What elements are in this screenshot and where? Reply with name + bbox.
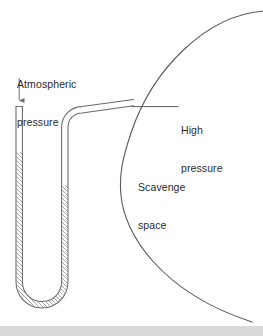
- label-atmospheric-pressure: Atmospheric pressure: [17, 53, 76, 153]
- label-scavenge-space: Scavenge space: [138, 156, 186, 256]
- manometer-fluid-hatching: [17, 152, 68, 307]
- label-scavenge-space-line2: space: [138, 219, 186, 232]
- label-high-pressure-line1: High: [181, 124, 223, 137]
- label-high-pressure-line2: pressure: [181, 162, 223, 175]
- label-high-pressure: High pressure: [181, 99, 223, 199]
- diagram-canvas: Atmospheric pressure High pressure Scave…: [0, 0, 263, 336]
- label-atmospheric-pressure-line1: Atmospheric: [17, 78, 76, 91]
- label-scavenge-space-line1: Scavenge: [138, 181, 186, 194]
- label-atmospheric-pressure-line2: pressure: [17, 116, 76, 129]
- scavenge-space-diagram: [0, 0, 263, 336]
- footer-band: [0, 326, 263, 336]
